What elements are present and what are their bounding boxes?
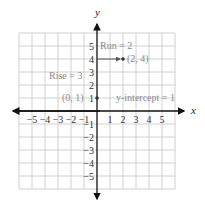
svg-text:5: 5 [89, 41, 94, 52]
svg-text:5: 5 [160, 114, 165, 125]
point-0-1 [95, 96, 99, 100]
y-axis-label: y [94, 6, 100, 18]
x-axis-label: x [190, 104, 196, 116]
svg-text:−1: −1 [83, 119, 94, 130]
point-b-label: (2, 4) [127, 53, 149, 65]
point-2-4 [121, 57, 125, 61]
svg-text:3: 3 [134, 114, 139, 125]
svg-text:1: 1 [108, 114, 113, 125]
svg-text:−2: −2 [83, 132, 94, 143]
rise-label: Rise = 3 [49, 70, 82, 81]
svg-text:1: 1 [89, 93, 94, 104]
svg-text:4: 4 [89, 54, 94, 65]
svg-text:−4: −4 [40, 114, 51, 125]
svg-text:−4: −4 [83, 158, 94, 169]
svg-text:−3: −3 [83, 145, 94, 156]
x-tick-labels: −5 −4 −3 −2 −1 1 2 3 4 5 [27, 114, 165, 125]
coordinate-plane: x y −5 −4 −3 −2 −1 1 2 3 4 5 5 4 3 2 1 −… [0, 0, 205, 209]
svg-text:4: 4 [147, 114, 152, 125]
svg-text:−3: −3 [53, 114, 64, 125]
svg-text:2: 2 [89, 80, 94, 91]
svg-text:−5: −5 [27, 114, 38, 125]
svg-text:−2: −2 [66, 114, 77, 125]
run-label: Run = 2 [100, 40, 132, 51]
svg-text:2: 2 [121, 114, 126, 125]
svg-text:−5: −5 [83, 171, 94, 182]
point-a-label: (0, 1) [62, 92, 84, 104]
y-intercept-label: y-intercept = 1 [116, 92, 175, 103]
svg-text:3: 3 [89, 67, 94, 78]
